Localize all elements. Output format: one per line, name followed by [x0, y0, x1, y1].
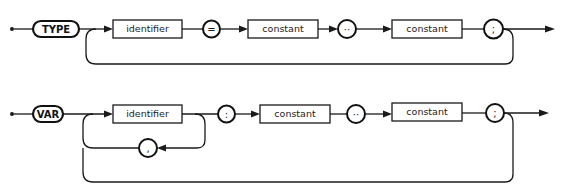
semicolon-symbol: ;: [492, 24, 495, 35]
var-declaration-diagram: VAR identifier , : constant ·· constant …: [10, 103, 549, 182]
arrow-icon: [251, 111, 260, 118]
start-dot: [10, 27, 14, 31]
exit-arrow-icon: [545, 26, 555, 33]
identifier-label: identifier: [126, 23, 169, 34]
comma-symbol: ,: [146, 143, 149, 154]
constant-low-label: constant: [274, 108, 316, 119]
semicolon-symbol: ;: [493, 108, 496, 119]
arrow-icon: [383, 111, 392, 118]
range-symbol: ··: [353, 109, 359, 120]
constant-high-label: constant: [406, 23, 448, 34]
arrow-icon: [239, 26, 248, 33]
type-declaration-diagram: TYPE identifier = constant ·· constant ;: [10, 20, 555, 65]
identifier-label: identifier: [126, 108, 169, 119]
arrow-icon: [104, 26, 113, 33]
exit-arrow-icon: [539, 110, 549, 117]
arrow-icon: [329, 26, 338, 33]
equals-symbol: =: [207, 24, 215, 35]
constant-high-label: constant: [406, 106, 448, 117]
start-dot: [10, 112, 14, 116]
arrow-icon: [383, 26, 392, 33]
var-keyword: VAR: [37, 109, 60, 120]
colon-symbol: :: [225, 109, 228, 120]
constant-low-label: constant: [262, 23, 304, 34]
arrow-icon: [104, 111, 113, 118]
range-symbol: ··: [344, 24, 350, 35]
syntax-diagram: TYPE identifier = constant ·· constant ;…: [0, 0, 568, 196]
arrow-icon: [157, 145, 166, 152]
type-keyword: TYPE: [42, 24, 70, 35]
